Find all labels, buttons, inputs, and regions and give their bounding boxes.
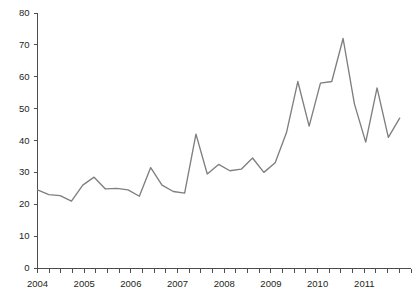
data-series-line (38, 39, 400, 202)
y-tick-marks (34, 13, 38, 268)
x-tick-labels: 20042005200620072008200920102011 (27, 278, 375, 289)
x-tick-label: 2006 (120, 278, 141, 289)
y-axis: 01020304050607080 (19, 7, 38, 273)
y-tick-label: 60 (19, 71, 30, 82)
x-tick-marks (38, 269, 412, 273)
x-tick-label: 2007 (167, 278, 188, 289)
y-tick-labels: 01020304050607080 (19, 7, 30, 273)
y-tick-label: 70 (19, 39, 30, 50)
y-tick-label: 40 (19, 135, 30, 146)
x-tick-label: 2010 (307, 278, 328, 289)
y-tick-label: 0 (24, 262, 29, 273)
x-axis: 20042005200620072008200920102011 (27, 269, 411, 290)
line-chart: 01020304050607080 2004200520062007200820… (0, 0, 413, 302)
x-tick-label: 2008 (214, 278, 235, 289)
x-tick-label: 2004 (27, 278, 48, 289)
y-tick-label: 20 (19, 198, 30, 209)
y-tick-label: 30 (19, 166, 30, 177)
plot-area (38, 39, 400, 202)
y-tick-label: 50 (19, 103, 30, 114)
x-tick-label: 2005 (74, 278, 95, 289)
x-tick-label: 2011 (354, 278, 374, 289)
x-tick-label: 2009 (260, 278, 281, 289)
y-tick-label: 10 (19, 230, 30, 241)
chart-canvas: 01020304050607080 2004200520062007200820… (0, 0, 413, 302)
y-tick-label: 80 (19, 7, 30, 18)
